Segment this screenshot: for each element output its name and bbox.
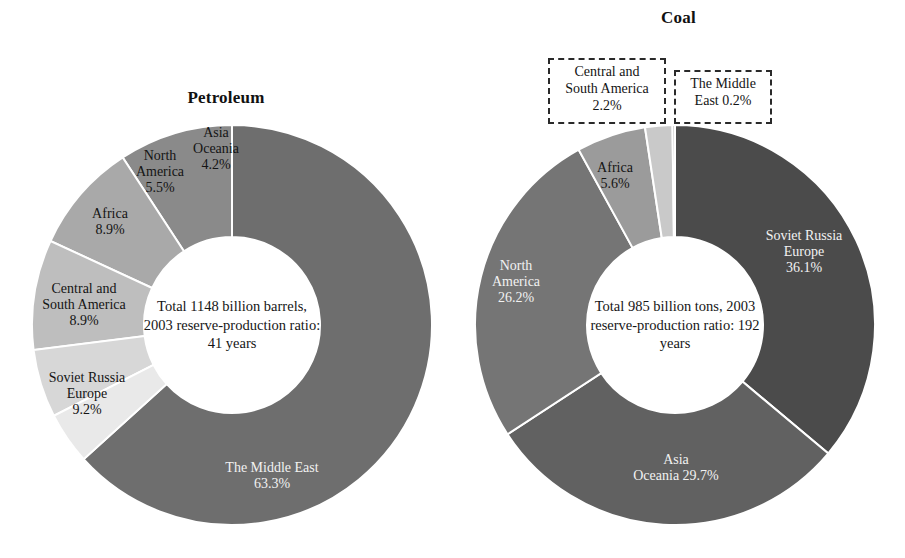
coal-callout-central-and-south-america: Central and South America 2.2% [548,58,666,124]
donut-slice [672,125,675,237]
coal-callout-the-middle-east: The Middle East 0.2% [674,70,772,124]
coal-callout-central-and-south-america-line3: 2.2% [556,98,658,115]
petroleum-chart-title: Petroleum [0,88,452,108]
coal-callout-central-and-south-america-line2: South America [556,81,658,98]
petroleum-donut: Total 1148 billion barrels, 2003 reserve… [29,122,435,528]
petroleum-donut-svg [29,122,435,528]
coal-chart-panel: Coal Total 985 billion tons, 2003 reserv… [452,0,905,558]
coal-donut-svg [472,122,878,528]
coal-callout-central-and-south-america-line1: Central and [556,64,658,81]
coal-callout-the-middle-east-line2: East 0.2% [682,93,764,110]
coal-chart-title: Coal [452,8,905,28]
donut-slice [675,125,875,453]
coal-donut: Total 985 billion tons, 2003 reserve-pro… [472,122,878,528]
coal-callout-the-middle-east-line1: The Middle [682,76,764,93]
petroleum-chart-panel: Petroleum Total 1148 billion barrels, 20… [0,0,452,558]
